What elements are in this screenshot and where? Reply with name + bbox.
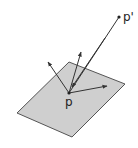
label-p-prime: p' [123, 10, 134, 24]
point-p-prime-dot [117, 15, 120, 18]
plane-vector-diagram: p p' [0, 0, 138, 148]
label-p: p [65, 95, 73, 109]
